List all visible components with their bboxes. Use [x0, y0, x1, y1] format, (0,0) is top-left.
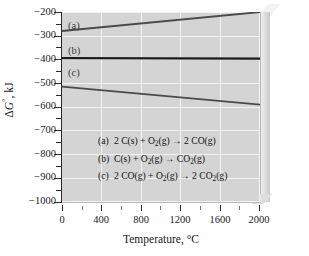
legend-tag-c: (c): [98, 169, 114, 183]
x-tick-mark-1400: [200, 206, 201, 210]
y-tick-mark--500: [54, 83, 62, 84]
y-tick-mark--450: [56, 71, 61, 72]
y-tick-mark--850: [56, 166, 61, 167]
x-tick-label-1600: 1600: [200, 214, 240, 225]
x-tick-mark-600: [121, 206, 122, 210]
y-tick-label--200: −200: [12, 7, 56, 17]
x-tick-label-0: 0: [42, 214, 82, 225]
legend-eq-b-arrow: →: [165, 153, 175, 164]
y-tick-mark--350: [56, 47, 61, 48]
y-tick-mark--800: [54, 154, 62, 155]
legend-tag-b: (b): [98, 152, 114, 166]
x-tick-label-400: 400: [81, 214, 121, 225]
y-tick-label--900: −900: [12, 172, 56, 182]
y-tick-mark--950: [56, 190, 61, 191]
plot-3d-right-panel: [260, 12, 270, 202]
legend-eq-c-post: 2 CO: [192, 170, 213, 181]
y-tick-mark--400: [54, 59, 62, 60]
y-tick-mark--700: [54, 130, 62, 131]
legend: (a)2 C(s) + O2(g) → 2 CO(g) (b)C(s) + O2…: [98, 134, 227, 187]
x-axis-spine: [61, 202, 261, 203]
curve-tag-b: (b): [68, 45, 80, 56]
x-tick-mark-1600: [220, 205, 221, 211]
y-tick-mark--250: [56, 24, 61, 25]
plot-area: (a) (b) (c) (a)2 C(s) + O2(g) → 2 CO(g) …: [62, 12, 260, 202]
y-tick-mark--300: [54, 36, 62, 37]
y-tick-label--600: −600: [12, 101, 56, 111]
legend-eq-a-mid: (g): [158, 135, 169, 146]
legend-eq-a-arrow: →: [172, 135, 182, 146]
y-tick-label--500: −500: [12, 78, 56, 88]
x-tick-mark-1800: [239, 206, 240, 210]
legend-row-b: (b)C(s) + O2(g) → CO2(g): [98, 152, 227, 170]
y-tick-mark--600: [54, 107, 62, 108]
legend-eq-c-pre: 2 CO(g) + O: [114, 170, 163, 181]
legend-row-a: (a)2 C(s) + O2(g) → 2 CO(g): [98, 134, 227, 152]
x-tick-mark-1000: [160, 206, 161, 210]
legend-eq-b-tail: (g): [194, 153, 205, 164]
y-tick-label--300: −300: [12, 30, 56, 40]
curve-tag-a: (a): [68, 20, 80, 31]
x-tick-mark-200: [82, 206, 83, 210]
legend-eq-a-post: 2 CO(g): [184, 135, 216, 146]
y-tick-mark--550: [56, 95, 61, 96]
legend-eq-c-tail: (g): [216, 170, 227, 181]
x-tick-label-2000: 2000: [239, 214, 279, 225]
x-tick-mark-2000: [259, 205, 260, 211]
legend-eq-b-mid: (g): [151, 153, 162, 164]
ellingham-chart-figure: ΔG°, kJ −200 −300 −400 −500 −600 −700 −8…: [0, 0, 309, 256]
x-tick-mark-0: [62, 205, 63, 211]
legend-eq-b-post: CO: [177, 153, 190, 164]
x-axis-title: Temperature, °C: [62, 233, 260, 245]
legend-row-c: (c)2 CO(g) + O2(g) → 2 CO2(g): [98, 169, 227, 187]
legend-eq-c-mid: (g): [166, 170, 177, 181]
legend-tag-a: (a): [98, 134, 114, 148]
legend-eq-c-arrow: →: [180, 170, 190, 181]
series-line-c: [62, 87, 260, 105]
y-tick-mark--750: [56, 142, 61, 143]
curve-tag-c: (c): [68, 67, 80, 78]
x-tick-label-1200: 1200: [160, 214, 200, 225]
x-tick-mark-1200: [180, 205, 181, 211]
x-tick-mark-400: [101, 205, 102, 211]
x-tick-label-800: 800: [121, 214, 161, 225]
legend-eq-a-pre: 2 C(s) + O: [114, 135, 155, 146]
y-tick-label--400: −400: [12, 54, 56, 64]
legend-eq-b-pre: C(s) + O: [114, 153, 148, 164]
y-tick-label--800: −800: [12, 149, 56, 159]
y-tick-label--700: −700: [12, 125, 56, 135]
y-tick-mark--650: [56, 118, 61, 119]
y-tick-mark--900: [54, 178, 62, 179]
y-tick-mark--200: [54, 12, 62, 13]
x-tick-mark-800: [141, 205, 142, 211]
y-tick-label--1000: −1000: [12, 196, 56, 206]
y-tick-mark--1000: [54, 202, 62, 203]
series-line-a: [62, 12, 260, 31]
